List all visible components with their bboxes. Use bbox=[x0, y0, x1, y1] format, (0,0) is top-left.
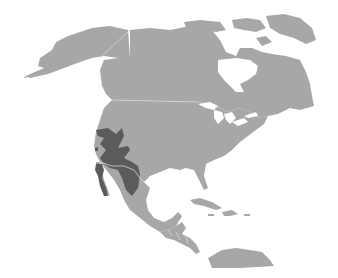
cuba bbox=[190, 198, 222, 210]
hispaniola bbox=[222, 210, 238, 216]
south-america-north bbox=[208, 248, 274, 268]
north-america-map bbox=[0, 0, 338, 278]
map-container bbox=[0, 0, 338, 278]
